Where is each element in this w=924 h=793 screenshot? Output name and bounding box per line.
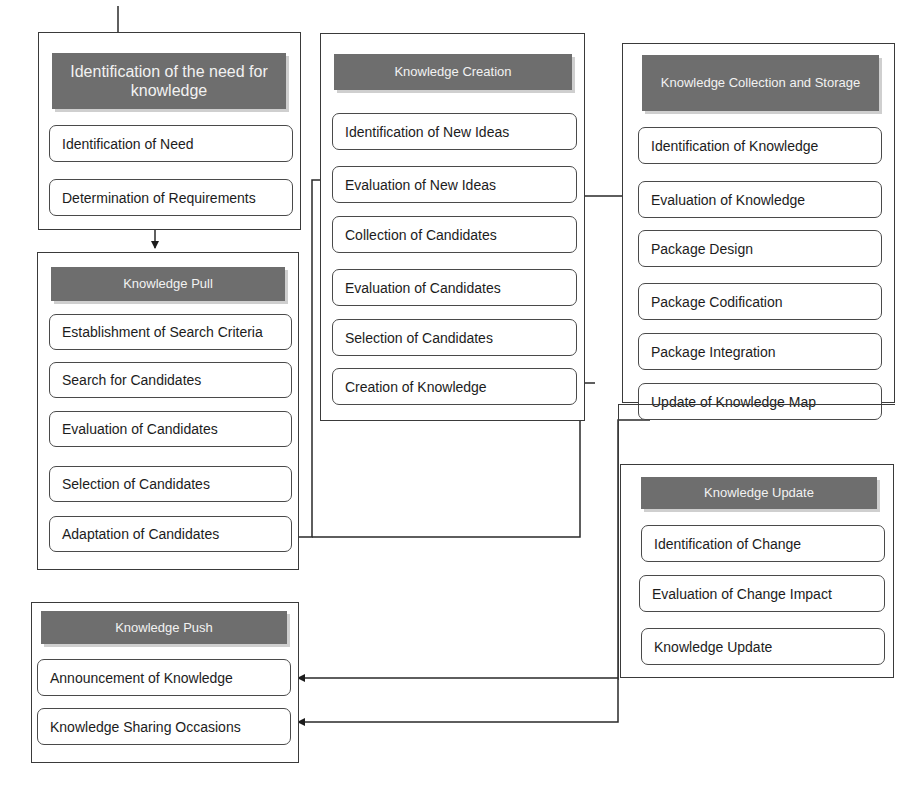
step-establishment-of-search-criteria[interactable]: Establishment of Search Criteria (49, 314, 292, 350)
step-package-design[interactable]: Package Design (638, 230, 882, 267)
group-knowledge-pull: Knowledge Pull Establishment of Search C… (37, 252, 299, 570)
step-knowledge-update[interactable]: Knowledge Update (641, 628, 885, 665)
group-header: Knowledge Collection and Storage (642, 55, 879, 111)
group-header: Knowledge Pull (51, 267, 285, 301)
step-evaluation-of-new-ideas[interactable]: Evaluation of New Ideas (332, 166, 577, 203)
step-identification-of-need[interactable]: Identification of Need (49, 125, 293, 162)
group-knowledge-creation: Knowledge Creation Identification of New… (320, 33, 585, 421)
step-search-for-candidates[interactable]: Search for Candidates (49, 362, 292, 398)
step-package-codification[interactable]: Package Codification (638, 283, 882, 320)
step-creation-of-knowledge[interactable]: Creation of Knowledge (332, 368, 577, 405)
step-identification-of-change[interactable]: Identification of Change (641, 525, 885, 562)
step-evaluation-of-knowledge[interactable]: Evaluation of Knowledge (638, 181, 882, 218)
step-identification-of-knowledge[interactable]: Identification of Knowledge (638, 127, 882, 164)
step-selection-of-candidates[interactable]: Selection of Candidates (332, 319, 577, 356)
group-header: Knowledge Creation (334, 54, 572, 90)
group-header: Knowledge Update (641, 477, 877, 509)
group-header: Identification of the need for knowledge (52, 53, 286, 109)
step-announcement-of-knowledge[interactable]: Announcement of Knowledge (37, 659, 291, 696)
step-evaluation-of-candidates[interactable]: Evaluation of Candidates (49, 411, 292, 447)
step-evaluation-of-candidates[interactable]: Evaluation of Candidates (332, 269, 577, 306)
group-identification-of-need: Identification of the need for knowledge… (38, 32, 301, 230)
group-knowledge-collection-and-storage: Knowledge Collection and Storage Identif… (622, 43, 895, 403)
group-knowledge-push: Knowledge Push Announcement of Knowledge… (31, 602, 299, 763)
group-knowledge-update: Knowledge Update Identification of Chang… (620, 464, 894, 678)
step-evaluation-of-change-impact[interactable]: Evaluation of Change Impact (639, 575, 885, 612)
step-adaptation-of-candidates[interactable]: Adaptation of Candidates (49, 516, 292, 552)
group-header: Knowledge Push (41, 611, 287, 644)
step-selection-of-candidates[interactable]: Selection of Candidates (49, 466, 292, 502)
step-determination-of-requirements[interactable]: Determination of Requirements (49, 179, 293, 216)
step-identification-of-new-ideas[interactable]: Identification of New Ideas (332, 113, 577, 150)
step-package-integration[interactable]: Package Integration (638, 333, 882, 370)
step-collection-of-candidates[interactable]: Collection of Candidates (332, 216, 577, 253)
step-knowledge-sharing-occasions[interactable]: Knowledge Sharing Occasions (37, 708, 291, 745)
